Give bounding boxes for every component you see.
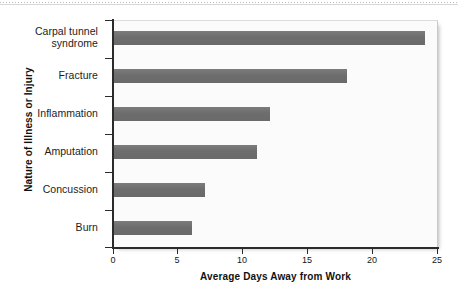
x-axis-tick <box>242 249 243 254</box>
y-axis-label-line-2: syndrome <box>51 37 98 49</box>
y-axis-label-burn: Burn <box>0 222 98 234</box>
bar-inflammation <box>114 107 270 121</box>
scan-artifact-line-dotted <box>0 2 458 3</box>
y-axis-label-line-1: Carpal tunnel <box>35 25 98 37</box>
y-axis-label-fracture: Fracture <box>0 70 98 82</box>
y-axis-tick <box>105 210 113 211</box>
y-axis-label-inflammation: Inflammation <box>0 108 98 120</box>
x-axis-tick-label: 5 <box>164 255 190 265</box>
x-axis-tick <box>113 249 114 254</box>
y-axis-tick <box>105 58 113 59</box>
x-axis-tick-label: 15 <box>294 255 320 265</box>
y-axis-label-concussion: Concussion <box>0 184 98 196</box>
x-axis-tick <box>372 249 373 254</box>
y-axis-tick <box>105 96 113 97</box>
bar-concussion <box>114 183 205 197</box>
x-axis-tick-label: 0 <box>100 255 126 265</box>
x-axis-tick <box>177 249 178 254</box>
plot-area <box>113 20 438 248</box>
y-axis-tick <box>105 20 113 21</box>
y-axis-tick <box>105 134 113 135</box>
x-axis-title: Average Days Away from Work <box>113 271 438 282</box>
x-axis-tick-label: 20 <box>359 255 385 265</box>
y-axis-label-amputation: Amputation <box>0 146 98 158</box>
scan-artifact-line-solid <box>0 4 458 5</box>
y-axis-label-carpal-tunnel-syndrome: Carpal tunnel syndrome <box>0 26 98 49</box>
x-axis-line <box>112 247 439 249</box>
y-axis-tick <box>105 172 113 173</box>
y-axis-tick <box>105 247 113 248</box>
bar-carpal-tunnel-syndrome <box>114 31 425 45</box>
x-axis-tick-label: 25 <box>424 255 450 265</box>
x-axis-tick <box>437 249 438 254</box>
x-axis-tick-label: 10 <box>229 255 255 265</box>
y-axis-title: Nature of Illness or Injury <box>23 30 34 230</box>
bar-fracture <box>114 69 347 83</box>
bar-burn <box>114 221 192 235</box>
x-axis-tick <box>307 249 308 254</box>
bar-amputation <box>114 145 257 159</box>
